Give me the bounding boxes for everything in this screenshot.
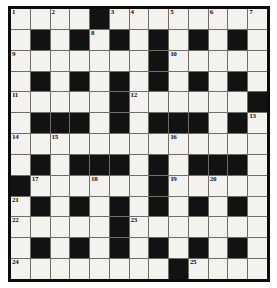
crossword-cell[interactable]: 21 <box>11 197 30 217</box>
crossword-cell[interactable]: 12 <box>130 92 149 112</box>
crossword-cell[interactable] <box>248 197 267 217</box>
crossword-cell[interactable] <box>209 113 228 133</box>
crossword-cell[interactable] <box>189 134 208 154</box>
crossword-cell[interactable] <box>31 259 50 279</box>
crossword-cell[interactable] <box>11 238 30 258</box>
crossword-cell[interactable]: 7 <box>248 9 267 29</box>
crossword-cell[interactable] <box>149 134 168 154</box>
crossword-cell[interactable] <box>70 259 89 279</box>
crossword-cell[interactable] <box>189 217 208 237</box>
crossword-cell[interactable] <box>11 113 30 133</box>
crossword-cell[interactable] <box>51 217 70 237</box>
crossword-cell[interactable] <box>228 176 247 196</box>
crossword-cell[interactable]: 14 <box>11 134 30 154</box>
crossword-cell[interactable] <box>90 72 109 92</box>
crossword-cell[interactable] <box>31 217 50 237</box>
crossword-cell[interactable] <box>169 92 188 112</box>
crossword-cell[interactable] <box>209 134 228 154</box>
crossword-cell[interactable] <box>248 259 267 279</box>
crossword-cell[interactable] <box>51 51 70 71</box>
crossword-cell[interactable] <box>31 51 50 71</box>
crossword-cell[interactable] <box>11 155 30 175</box>
crossword-cell[interactable] <box>209 217 228 237</box>
crossword-cell[interactable] <box>130 155 149 175</box>
crossword-cell[interactable]: 16 <box>169 134 188 154</box>
crossword-cell[interactable]: 8 <box>90 30 109 50</box>
crossword-cell[interactable] <box>228 134 247 154</box>
crossword-cell[interactable] <box>248 30 267 50</box>
crossword-cell[interactable] <box>130 113 149 133</box>
crossword-cell[interactable] <box>228 51 247 71</box>
crossword-cell[interactable] <box>248 217 267 237</box>
crossword-cell[interactable] <box>228 9 247 29</box>
crossword-cell[interactable] <box>70 176 89 196</box>
crossword-cell[interactable] <box>248 51 267 71</box>
crossword-cell[interactable] <box>248 72 267 92</box>
crossword-cell[interactable] <box>31 134 50 154</box>
crossword-cell[interactable] <box>189 176 208 196</box>
crossword-cell[interactable]: 3 <box>110 9 129 29</box>
crossword-cell[interactable]: 11 <box>11 92 30 112</box>
crossword-cell[interactable] <box>11 72 30 92</box>
crossword-cell[interactable] <box>130 238 149 258</box>
crossword-cell[interactable] <box>209 259 228 279</box>
crossword-cell[interactable]: 23 <box>130 217 149 237</box>
crossword-cell[interactable] <box>110 134 129 154</box>
crossword-cell[interactable] <box>70 9 89 29</box>
crossword-cell[interactable] <box>51 176 70 196</box>
crossword-cell[interactable]: 10 <box>169 51 188 71</box>
crossword-cell[interactable] <box>51 72 70 92</box>
crossword-cell[interactable] <box>130 72 149 92</box>
crossword-cell[interactable] <box>70 92 89 112</box>
crossword-cell[interactable] <box>110 176 129 196</box>
crossword-cell[interactable] <box>169 217 188 237</box>
crossword-cell[interactable] <box>130 134 149 154</box>
crossword-cell[interactable] <box>130 259 149 279</box>
crossword-cell[interactable] <box>189 92 208 112</box>
crossword-cell[interactable] <box>51 238 70 258</box>
crossword-cell[interactable] <box>169 72 188 92</box>
crossword-cell[interactable] <box>110 51 129 71</box>
crossword-cell[interactable] <box>90 197 109 217</box>
crossword-cell[interactable] <box>149 259 168 279</box>
crossword-cell[interactable] <box>90 92 109 112</box>
crossword-cell[interactable] <box>248 134 267 154</box>
crossword-cell[interactable]: 17 <box>31 176 50 196</box>
crossword-cell[interactable] <box>70 134 89 154</box>
crossword-cell[interactable] <box>149 9 168 29</box>
crossword-cell[interactable] <box>248 155 267 175</box>
crossword-cell[interactable] <box>149 92 168 112</box>
crossword-cell[interactable] <box>228 92 247 112</box>
crossword-cell[interactable] <box>51 92 70 112</box>
crossword-cell[interactable] <box>31 9 50 29</box>
crossword-cell[interactable] <box>169 238 188 258</box>
crossword-cell[interactable]: 2 <box>51 9 70 29</box>
crossword-cell[interactable] <box>228 217 247 237</box>
crossword-cell[interactable]: 19 <box>169 176 188 196</box>
crossword-cell[interactable] <box>70 217 89 237</box>
crossword-cell[interactable]: 15 <box>51 134 70 154</box>
crossword-cell[interactable] <box>169 197 188 217</box>
crossword-cell[interactable] <box>169 30 188 50</box>
crossword-cell[interactable] <box>90 134 109 154</box>
crossword-cell[interactable]: 6 <box>209 9 228 29</box>
crossword-cell[interactable]: 13 <box>248 113 267 133</box>
crossword-cell[interactable] <box>189 51 208 71</box>
crossword-cell[interactable] <box>90 259 109 279</box>
crossword-cell[interactable]: 25 <box>189 259 208 279</box>
crossword-grid[interactable]: 1234567891011121314151617181920212223242… <box>11 9 267 279</box>
crossword-cell[interactable] <box>228 259 247 279</box>
crossword-cell[interactable] <box>149 217 168 237</box>
crossword-cell[interactable] <box>248 238 267 258</box>
crossword-cell[interactable]: 18 <box>90 176 109 196</box>
crossword-cell[interactable]: 4 <box>130 9 149 29</box>
crossword-cell[interactable] <box>90 217 109 237</box>
crossword-cell[interactable] <box>248 176 267 196</box>
crossword-cell[interactable] <box>189 9 208 29</box>
crossword-cell[interactable] <box>70 51 89 71</box>
crossword-cell[interactable] <box>130 30 149 50</box>
crossword-cell[interactable] <box>51 30 70 50</box>
crossword-cell[interactable] <box>51 259 70 279</box>
crossword-cell[interactable]: 22 <box>11 217 30 237</box>
crossword-cell[interactable]: 20 <box>209 176 228 196</box>
